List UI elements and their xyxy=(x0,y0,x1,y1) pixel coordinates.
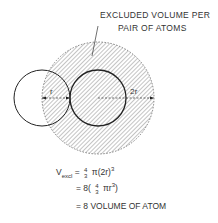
fraction-4-3-b: 43 xyxy=(95,183,98,195)
fraction-4-3: 43 xyxy=(84,167,87,179)
2r-label: 2r xyxy=(130,87,138,96)
equation-line-1: Vexcl = 43 π(2r)3 xyxy=(56,166,114,179)
equation-line-3: = 8 VOLUME OF ATOM xyxy=(76,201,166,211)
equation-line-2: = 8( 43 πr3) xyxy=(76,182,118,195)
callout-line-1: EXCLUDED VOLUME PER xyxy=(100,10,210,20)
r-label: r xyxy=(50,87,53,96)
callout-line-2: PAIR OF ATOMS xyxy=(118,23,187,33)
